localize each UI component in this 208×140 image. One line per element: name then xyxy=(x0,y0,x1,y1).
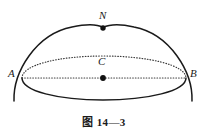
figure-caption: 图 14—3 xyxy=(0,113,208,129)
figure-page: N A B C 图 14—3 xyxy=(0,0,208,140)
point-N xyxy=(100,25,105,30)
label-C: C xyxy=(98,56,105,67)
equator-front-arc xyxy=(22,78,186,100)
label-A: A xyxy=(8,68,15,79)
point-C xyxy=(100,75,106,81)
label-B: B xyxy=(190,68,197,79)
label-N: N xyxy=(99,10,106,21)
